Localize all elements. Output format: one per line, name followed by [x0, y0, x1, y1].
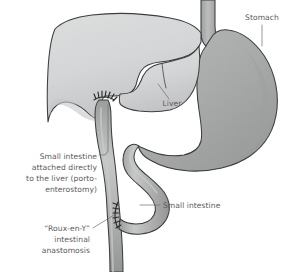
- stomach-label: Stomach: [245, 13, 279, 22]
- roux-en-y-label-line-1: “Roux-en-Y”: [44, 224, 90, 233]
- liver-label: Liver: [163, 99, 183, 108]
- roux-en-y-label-line-3: anastomosis: [42, 246, 90, 255]
- portoenterostomy-label: Small intestine attached directly to the…: [26, 152, 97, 194]
- anatomy-illustration: Stomach Liver Small intestine Small inte…: [0, 0, 295, 272]
- portoenterostomy-label-line-2: attached directly: [32, 163, 98, 172]
- portoenterostomy-label-line-3: to the liver (porto-: [26, 174, 97, 183]
- roux-en-y-label-line-2: intestinal: [54, 235, 90, 244]
- medical-diagram-figure: Stomach Liver Small intestine Small inte…: [0, 0, 295, 272]
- portoenterostomy-label-line-4: enterostomy): [45, 185, 97, 194]
- small-intestine-label: Small intestine: [163, 201, 221, 210]
- portoenterostomy-label-line-1: Small intestine: [40, 152, 98, 161]
- roux-en-y-label: “Roux-en-Y” intestinal anastomosis: [42, 224, 90, 255]
